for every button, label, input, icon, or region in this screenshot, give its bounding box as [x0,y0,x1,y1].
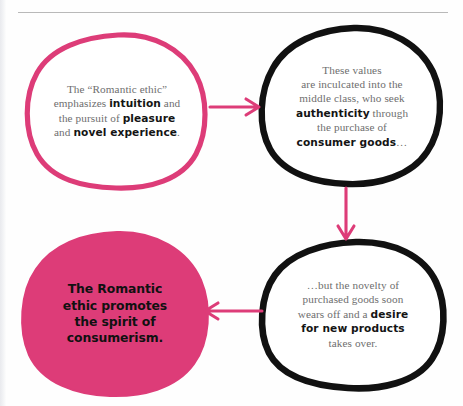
scan-edge-band [0,0,6,406]
node-text-consumerism: The Romantic ethic promotes the spirit o… [57,281,173,347]
arrow-down-icon [334,186,358,244]
arrow-left-icon [200,300,264,322]
diagram-page: The “Romantic ethic” emphasizes intuitio… [0,0,463,406]
diagram-node-consumerism: The Romantic ethic promotes the spirit o… [18,230,212,398]
arrow-right-icon [208,96,264,118]
diagram-node-middle-class: These values are inculcated into the mid… [256,24,448,188]
diagram-node-novelty: …but the novelty of purchased goods soon… [256,238,450,390]
node-text-middle-class: These values are inculcated into the mid… [290,63,414,149]
node-text-romantic-ethic: The “Romantic ethic” emphasizes intuitio… [48,82,187,140]
horizontal-rule [18,12,448,13]
diagram-node-romantic-ethic: The “Romantic ethic” emphasizes intuitio… [22,30,212,192]
node-text-novelty: …but the novelty of purchased goods soon… [292,278,415,350]
